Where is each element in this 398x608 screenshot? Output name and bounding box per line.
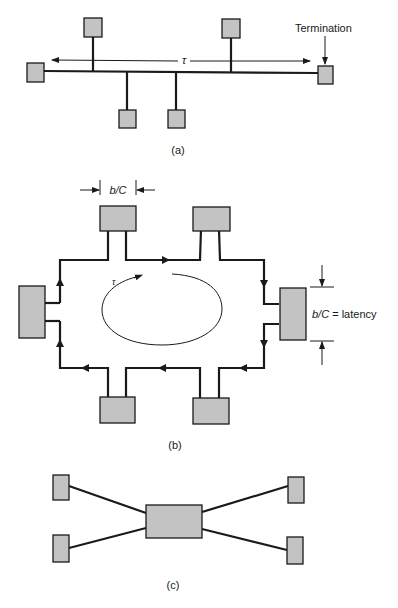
latency-label: b/C = latency — [312, 308, 377, 320]
ring-diagram: b/C τ b/C = laten — [19, 180, 377, 451]
ring-station — [100, 397, 135, 423]
bus-station — [222, 19, 240, 38]
ring-station — [19, 286, 45, 338]
ring-station — [193, 207, 230, 231]
star-station — [53, 475, 69, 500]
ring-station — [100, 206, 136, 231]
star-station — [287, 537, 303, 564]
tau-label: τ — [112, 277, 116, 287]
caption-a: (a) — [171, 144, 184, 156]
star-hub — [146, 505, 202, 538]
network-topologies-figure: τ Termination (a) b/C — [0, 0, 398, 608]
ring-station — [193, 398, 229, 424]
star-diagram: (c) — [53, 475, 304, 591]
termination-label: Termination — [295, 22, 352, 34]
star-station — [53, 535, 69, 562]
bus-station — [119, 110, 136, 128]
caption-b: (b) — [168, 439, 181, 451]
termination-station — [318, 66, 333, 84]
bc-width-label: b/C — [109, 184, 126, 196]
bus-station — [84, 18, 102, 37]
bus-station — [168, 110, 185, 128]
bus-line — [44, 71, 318, 73]
caption-c: (c) — [167, 579, 180, 591]
bus-diagram: τ Termination (a) — [27, 18, 352, 156]
bus-station — [27, 63, 44, 82]
ring-station — [280, 288, 306, 340]
latency-text: = latency — [329, 308, 377, 320]
star-station — [288, 477, 304, 503]
circulation-ellipse — [102, 274, 222, 345]
tau-label: τ — [182, 54, 187, 66]
